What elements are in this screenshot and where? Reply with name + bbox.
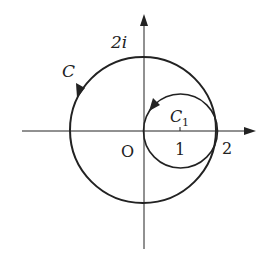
label-real-1: 1 [175, 140, 185, 159]
label-C: C [62, 61, 75, 81]
label-real-2: 2 [222, 139, 232, 158]
circle-C1-direction-arrow-icon [149, 98, 160, 111]
imaginary-axis-arrowhead-icon [140, 14, 148, 26]
label-2i: 2i [110, 32, 127, 52]
circle-C-direction-arrow-icon [76, 83, 85, 98]
contour-diagram: 2i C C 1 O 1 2 [0, 0, 273, 274]
real-axis-arrowhead-icon [244, 127, 256, 135]
label-C1-subscript: 1 [182, 116, 189, 129]
label-C1: C [170, 107, 182, 126]
label-origin: O [121, 142, 134, 161]
